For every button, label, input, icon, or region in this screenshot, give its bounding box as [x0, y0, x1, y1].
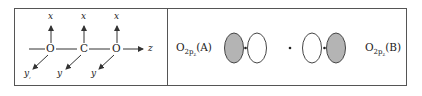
y-axes [33, 55, 114, 69]
x-axes [51, 26, 117, 43]
atom-label-c: C [80, 42, 88, 54]
y-axis-label-3: y [91, 68, 96, 78]
lobe-a-shaded [225, 33, 244, 63]
lobe-b-open [303, 33, 322, 63]
orbital-lobes [225, 33, 346, 63]
x-axis-label-1: x [48, 11, 53, 21]
y-axis-label-1: y, [24, 68, 31, 79]
lobe-a-open [248, 33, 267, 63]
x-axis-label-3: x [114, 11, 119, 21]
y-axis-label-2: y [57, 68, 62, 78]
lobe-b-shaded [327, 33, 346, 63]
x-axis-label-2: x [81, 11, 86, 21]
atom-label-o-right: O [112, 42, 121, 54]
orbital-label-b: O2pz(B) [365, 41, 401, 57]
atom-label-o-left: O [46, 42, 55, 54]
orbital-label-a: O2pz(A) [176, 41, 212, 57]
z-axis-label: z [148, 43, 153, 53]
